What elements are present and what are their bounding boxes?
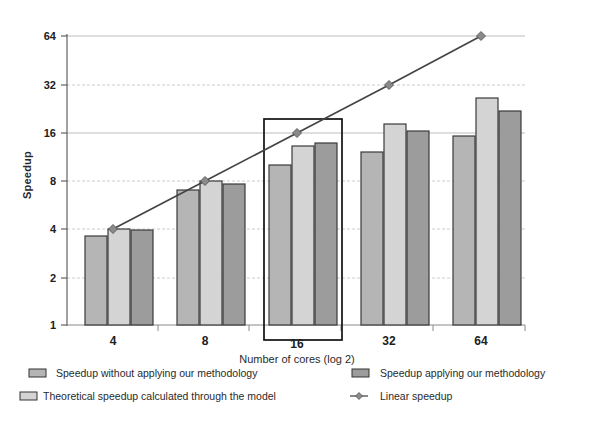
bar-64-with-methodology — [499, 111, 521, 325]
bar-8-with-methodology — [223, 184, 245, 325]
bar-32-theoretical — [384, 124, 406, 325]
bar-group-8 — [177, 181, 245, 325]
legend-label-linear-speedup: Linear speedup — [380, 390, 453, 402]
y-tick-32: 32 — [44, 79, 56, 91]
bar-16-without-methodology — [269, 165, 291, 325]
y-tick-16: 16 — [44, 127, 56, 139]
x-tick-4: 4 — [110, 334, 117, 348]
legend-item-without-methodology[interactable]: Speedup without applying our methodology — [29, 367, 258, 379]
x-tick-8: 8 — [202, 334, 209, 348]
bar-4-without-methodology — [85, 236, 107, 325]
bar-8-without-methodology — [177, 190, 199, 325]
x-tick-64: 64 — [474, 334, 488, 348]
y-tick-1: 1 — [50, 319, 56, 331]
bar-64-without-methodology — [453, 136, 475, 325]
y-tick-2: 2 — [50, 272, 56, 284]
legend-label-with-methodology: Speedup applying our methodology — [380, 367, 546, 379]
speedup-chart: 64 32 16 8 4 2 1 Speedup — [0, 0, 589, 428]
bar-16-theoretical — [292, 146, 314, 325]
bar-swatch-light-gray — [20, 392, 37, 400]
bar-4-theoretical — [108, 229, 130, 325]
bar-swatch-dark-gray — [352, 369, 369, 377]
legend-item-theoretical[interactable]: Theoretical speedup calculated through t… — [20, 390, 276, 402]
legend-label-without-methodology: Speedup without applying our methodology — [56, 367, 258, 379]
x-tick-16: 16 — [290, 337, 304, 351]
bar-group-4 — [85, 229, 153, 325]
bar-8-theoretical — [200, 181, 222, 325]
y-axis-title: Speedup — [21, 151, 33, 199]
x-tick-32: 32 — [382, 334, 396, 348]
bar-group-16 — [269, 143, 337, 325]
legend-item-with-methodology[interactable]: Speedup applying our methodology — [352, 367, 546, 379]
chart-canvas: 64 32 16 8 4 2 1 Speedup — [0, 0, 589, 428]
x-axis-title: Number of cores (log 2) — [239, 353, 355, 365]
bar-16-with-methodology — [315, 143, 337, 325]
bar-32-without-methodology — [361, 152, 383, 325]
y-tick-64: 64 — [44, 30, 57, 42]
bar-4-with-methodology — [131, 230, 153, 325]
bar-32-with-methodology — [407, 131, 429, 325]
bar-64-theoretical — [476, 98, 498, 325]
bar-swatch-medium-gray — [29, 369, 46, 377]
y-tick-4: 4 — [50, 223, 57, 235]
bar-group-32 — [361, 124, 429, 325]
y-tick-8: 8 — [50, 175, 56, 187]
legend-label-theoretical: Theoretical speedup calculated through t… — [43, 390, 276, 402]
